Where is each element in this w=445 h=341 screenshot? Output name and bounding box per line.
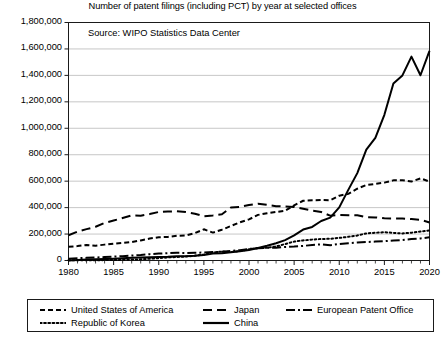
x-axis-tick-label: 2015 [364, 267, 404, 277]
y-axis-tick-label: 0 [0, 254, 62, 264]
legend-swatch-solid-icon [203, 319, 229, 327]
legend-label: Japan [234, 305, 259, 315]
legend-label: European Patent Office [317, 305, 413, 315]
series-line-china [69, 51, 430, 261]
series-line-united-states-of-america [69, 178, 430, 246]
legend-item[interactable]: United States of America [40, 305, 173, 315]
x-axis-tick-label: 1995 [184, 267, 224, 277]
x-axis-ticks [65, 23, 430, 266]
chart-plot-area [0, 0, 445, 341]
y-axis-tick-label: 400,000 [0, 201, 62, 211]
chart-legend: United States of AmericaJapanEuropean Pa… [27, 299, 434, 332]
legend-item[interactable]: Republic of Korea [40, 318, 145, 328]
legend-swatch-dotted-icon [40, 319, 66, 327]
x-axis-tick-label: 2000 [229, 267, 269, 277]
legend-label: United States of America [71, 305, 173, 315]
y-axis-tick-label: 200,000 [0, 228, 62, 238]
patent-filings-chart: Number of patent filings (including PCT)… [0, 0, 445, 341]
y-axis-tick-label: 800,000 [0, 148, 62, 158]
y-axis-tick-label: 1,200,000 [0, 95, 62, 105]
plot-frame [69, 23, 430, 261]
y-axis-tick-label: 1,400,000 [0, 69, 62, 79]
x-axis-tick-label: 1980 [49, 267, 89, 277]
legend-label: Republic of Korea [71, 318, 145, 328]
x-axis-tick-label: 2010 [319, 267, 359, 277]
legend-label: China [234, 318, 258, 328]
series-line-european-patent-office [69, 237, 430, 258]
legend-item[interactable]: China [203, 318, 258, 328]
data-series [69, 51, 430, 261]
legend-item[interactable]: Japan [203, 305, 259, 315]
x-axis-tick-label: 1985 [94, 267, 134, 277]
x-axis-tick-label: 1990 [139, 267, 179, 277]
y-axis-tick-label: 1,000,000 [0, 122, 62, 132]
x-axis-tick-label: 2005 [274, 267, 314, 277]
y-axis-tick-label: 1,800,000 [0, 16, 62, 26]
gridlines [69, 23, 430, 235]
legend-swatch-short-dash-icon [40, 306, 66, 314]
y-axis-tick-label: 600,000 [0, 175, 62, 185]
y-axis-tick-label: 1,600,000 [0, 42, 62, 52]
legend-item[interactable]: European Patent Office [286, 305, 413, 315]
legend-swatch-dash-dot-icon [286, 306, 312, 314]
legend-swatch-long-dash-icon [203, 306, 229, 314]
x-axis-tick-label: 2020 [410, 267, 445, 277]
